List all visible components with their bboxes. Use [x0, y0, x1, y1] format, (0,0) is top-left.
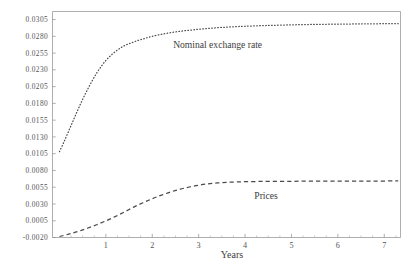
line-chart: -0.00200.00050.00300.00550.00800.01050.0… — [0, 0, 416, 269]
y-tick-label: -0.0020 — [23, 233, 48, 242]
y-tick-label: 0.0130 — [26, 133, 48, 142]
x-tick-label: 7 — [382, 241, 386, 250]
series-label-prices: Prices — [254, 190, 278, 201]
x-axis-tick-labels: 1234567 — [104, 241, 386, 250]
chart-figure: -0.00200.00050.00300.00550.00800.01050.0… — [0, 0, 416, 269]
x-tick-label: 4 — [243, 241, 247, 250]
y-tick-label: 0.0230 — [26, 65, 48, 74]
y-tick-label: 0.0205 — [26, 82, 48, 91]
series-annotations: Nominal exchange ratePrices — [173, 39, 278, 200]
y-tick-label: 0.0305 — [26, 15, 48, 24]
y-tick-label: 0.0105 — [26, 149, 48, 158]
y-axis-ticks — [53, 20, 56, 238]
x-tick-label: 2 — [150, 241, 154, 250]
y-tick-label: 0.0280 — [26, 32, 48, 41]
y-tick-label: 0.0055 — [26, 183, 48, 192]
y-tick-label: 0.0255 — [26, 49, 48, 58]
x-tick-label: 6 — [336, 241, 340, 250]
series-label-nominal-exchange-rate: Nominal exchange rate — [173, 39, 262, 50]
series-line-prices — [59, 181, 398, 237]
x-axis-title: Years — [221, 249, 243, 260]
y-axis-tick-labels: -0.00200.00050.00300.00550.00800.01050.0… — [23, 15, 48, 242]
y-tick-label: 0.0005 — [26, 216, 48, 225]
x-tick-label: 3 — [197, 241, 201, 250]
x-tick-label: 5 — [289, 241, 293, 250]
y-tick-label: 0.0080 — [26, 166, 48, 175]
y-tick-label: 0.0155 — [26, 116, 48, 125]
x-axis-ticks — [71, 234, 396, 238]
y-tick-label: 0.0030 — [26, 200, 48, 209]
x-tick-label: 1 — [104, 241, 108, 250]
data-series — [59, 24, 398, 237]
y-tick-label: 0.0180 — [26, 99, 48, 108]
